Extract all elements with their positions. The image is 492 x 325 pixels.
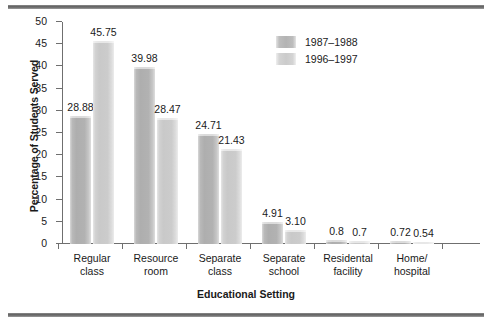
- bar-value-label: 3.10: [285, 215, 305, 227]
- bottom-divider-rule: [8, 313, 484, 317]
- x-axis-tick: [378, 244, 379, 249]
- plot-area: 05101520253035404550 28.8845.7539.9828.4…: [62, 22, 480, 244]
- bar-group: 24.7121.43: [196, 22, 244, 244]
- legend-item-1987-1988: 1987–1988: [276, 33, 358, 50]
- bar[interactable]: 24.71: [198, 134, 219, 244]
- bar[interactable]: 4.91: [262, 222, 283, 244]
- y-axis-tick: 40: [56, 65, 62, 66]
- bar-value-label: 28.47: [154, 103, 180, 115]
- y-axis-tick-label: 20: [35, 148, 47, 160]
- bar-value-label: 21.43: [218, 134, 244, 146]
- bar-value-label: 39.98: [131, 52, 157, 64]
- x-axis-category-label: Separate school: [254, 252, 314, 278]
- y-axis-tick: 10: [56, 199, 62, 200]
- bar[interactable]: 0.8: [326, 240, 347, 244]
- y-axis-tick-label: 10: [35, 193, 47, 205]
- y-axis-tick-label: 15: [35, 170, 47, 182]
- bar[interactable]: 28.88: [70, 116, 91, 244]
- x-axis-category-label: Regular class: [62, 252, 122, 278]
- bar-value-label: 45.75: [90, 26, 116, 38]
- bar-group: 39.9828.47: [132, 22, 180, 244]
- legend-swatch-icon: [276, 36, 296, 48]
- y-axis-tick-label: 30: [35, 104, 47, 116]
- y-axis-tick: 5: [56, 221, 62, 222]
- bar-value-label: 0.7: [352, 226, 367, 238]
- bar[interactable]: 0.7: [349, 241, 370, 244]
- x-axis-category-label: Home/ hospital: [382, 252, 442, 278]
- x-axis-tick: [186, 244, 187, 249]
- y-axis-tick-label: 0: [41, 237, 47, 249]
- bar-value-label: 0.72: [390, 226, 410, 238]
- bar-value-label: 0.8: [329, 225, 344, 237]
- x-axis-category-label: Residental facility: [318, 252, 378, 278]
- y-axis-tick: 20: [56, 154, 62, 155]
- y-axis-tick: 30: [56, 110, 62, 111]
- y-axis-tick: 35: [56, 88, 62, 89]
- x-axis-tick: [58, 244, 59, 249]
- y-axis-tick: 0: [56, 243, 62, 244]
- chart-legend: 1987–1988 1996–1997: [276, 33, 358, 67]
- legend-label: 1996–1997: [305, 53, 358, 65]
- bar[interactable]: 21.43: [221, 149, 242, 244]
- y-axis-tick: 45: [56, 43, 62, 44]
- bar-group: 0.720.54: [388, 22, 436, 244]
- x-axis-tick: [250, 244, 251, 249]
- bar[interactable]: 3.10: [285, 230, 306, 244]
- bar-value-label: 0.54: [413, 227, 433, 239]
- y-axis-tick: 15: [56, 176, 62, 177]
- y-axis-tick-label: 35: [35, 82, 47, 94]
- y-axis-tick-label: 50: [35, 15, 47, 27]
- x-axis-tick: [122, 244, 123, 249]
- x-axis-title: Educational Setting: [0, 288, 492, 300]
- y-axis-tick-label: 25: [35, 126, 47, 138]
- y-axis-tick-label: 5: [41, 215, 47, 227]
- y-axis-tick-label: 45: [35, 37, 47, 49]
- y-axis-line: [62, 22, 63, 244]
- x-axis-tick: [442, 244, 443, 249]
- bar-group: 28.8845.75: [68, 22, 116, 244]
- bar-value-label: 28.88: [67, 101, 93, 113]
- x-axis-category-label: Separate class: [190, 252, 250, 278]
- bar[interactable]: 0.54: [413, 242, 434, 244]
- bar-chart-figure: Percentage of Students Served 0510152025…: [0, 0, 492, 325]
- top-divider-rule: [8, 5, 484, 9]
- bar[interactable]: 45.75: [93, 41, 114, 244]
- bar[interactable]: 39.98: [134, 67, 155, 245]
- bar-value-label: 24.71: [195, 119, 221, 131]
- bar-value-label: 4.91: [262, 207, 282, 219]
- y-axis-tick: 25: [56, 132, 62, 133]
- x-axis-tick: [314, 244, 315, 249]
- bar[interactable]: 0.72: [390, 241, 411, 244]
- bar[interactable]: 28.47: [157, 118, 178, 244]
- legend-label: 1987–1988: [305, 36, 358, 48]
- x-axis-category-label: Resource room: [126, 252, 186, 278]
- y-axis-tick: 50: [56, 21, 62, 22]
- legend-item-1996-1997: 1996–1997: [276, 50, 358, 67]
- y-axis-tick-label: 40: [35, 59, 47, 71]
- legend-swatch-icon: [276, 53, 296, 65]
